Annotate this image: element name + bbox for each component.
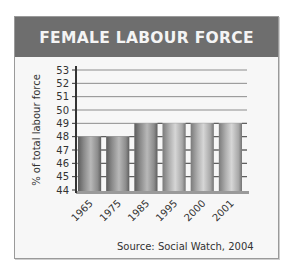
x-tick-label-1985: 1985 xyxy=(126,198,152,224)
y-tick-label-51: 51 xyxy=(56,91,69,102)
x-tick-label-1975: 1975 xyxy=(97,198,123,224)
bars xyxy=(78,123,247,193)
source-note: Source: Social Watch, 2004 xyxy=(117,241,254,252)
x-tick-label-2000: 2000 xyxy=(182,198,208,224)
bar-2001 xyxy=(219,123,242,193)
x-axis-base xyxy=(76,191,249,194)
y-tick-label-52: 52 xyxy=(56,78,69,89)
bar-1995 xyxy=(163,123,186,193)
y-tick-label-49: 49 xyxy=(56,118,69,129)
x-tick-label-1995: 1995 xyxy=(154,198,180,224)
y-tick-label-46: 46 xyxy=(56,158,69,169)
bar-1975 xyxy=(106,137,129,193)
bar-2000 xyxy=(191,123,214,193)
y-tick-label-47: 47 xyxy=(56,145,69,156)
y-tick-label-45: 45 xyxy=(56,171,69,182)
y-tick-label-44: 44 xyxy=(56,185,69,196)
y-tick-label-53: 53 xyxy=(56,65,69,76)
y-axis-label: % of total labour force xyxy=(31,74,42,186)
bar-1985 xyxy=(134,123,157,193)
x-tick-label-1965: 1965 xyxy=(69,198,95,224)
bar-chart: 44454647484950515253% of total labour fo… xyxy=(0,0,296,274)
x-tick-label-2001: 2001 xyxy=(210,198,236,224)
y-tick-label-50: 50 xyxy=(56,105,69,116)
bar-1965 xyxy=(78,137,101,193)
y-tick-label-48: 48 xyxy=(56,131,69,142)
